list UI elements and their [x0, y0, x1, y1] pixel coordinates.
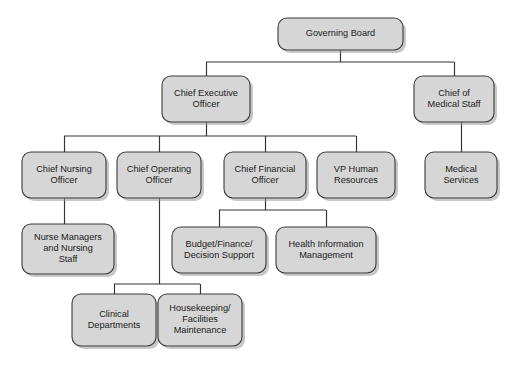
- org-node-clinical-departments[interactable]: ClinicalDepartments: [72, 294, 159, 349]
- node-label-line: Resources: [334, 175, 378, 185]
- node-label-line: VP Human: [334, 164, 378, 174]
- org-node-chief-nursing-officer[interactable]: Chief NursingOfficer: [22, 152, 109, 201]
- node-label-line: Clinical: [99, 309, 129, 319]
- node-label-line: Chief Operating: [127, 164, 191, 174]
- org-node-chief-of-medical-staff[interactable]: Chief ofMedical Staff: [414, 76, 497, 125]
- node-label-line: Officer: [252, 175, 279, 185]
- node-label-line: Chief Nursing: [36, 164, 92, 174]
- node-label-line: Health Information: [288, 239, 363, 249]
- node-label-line: Housekeeping/: [169, 303, 231, 313]
- node-label-line: Chief Executive: [174, 88, 238, 98]
- org-node-health-information-management[interactable]: Health InformationManagement: [276, 227, 379, 276]
- node-label-line: Officer: [146, 175, 173, 185]
- org-node-vp-human-resources[interactable]: VP HumanResources: [317, 152, 398, 201]
- node-label-line: Decision Support: [184, 250, 254, 260]
- node-label-line: Governing Board: [306, 28, 375, 38]
- node-label-line: Budget/Finance/: [186, 239, 253, 249]
- node-label-line: Chief Financial: [235, 164, 296, 174]
- org-chart-container: Governing BoardChief ExecutiveOfficerChi…: [0, 0, 514, 366]
- node-label-line: and Nursing: [43, 243, 93, 253]
- org-node-governing-board[interactable]: Governing Board: [278, 18, 406, 53]
- node-label-line: Medical Staff: [428, 99, 481, 109]
- node-label-line: Management: [299, 250, 353, 260]
- org-chart-svg: Governing BoardChief ExecutiveOfficerChi…: [0, 0, 514, 366]
- org-node-chief-operating-officer[interactable]: Chief OperatingOfficer: [117, 152, 204, 201]
- node-label-line: Departments: [88, 320, 141, 330]
- node-label-line: Services: [443, 175, 479, 185]
- node-label-line: Medical: [445, 164, 477, 174]
- node-label-line: Chief of: [438, 88, 470, 98]
- node-label-line: Nurse Managers: [34, 232, 102, 242]
- org-node-chief-executive-officer[interactable]: Chief ExecutiveOfficer: [162, 76, 253, 125]
- node-label-line: Officer: [51, 175, 78, 185]
- node-layer: Governing BoardChief ExecutiveOfficerChi…: [22, 18, 500, 349]
- node-label-line: Facilities: [182, 314, 218, 324]
- node-label-line: Staff: [59, 254, 78, 264]
- figure-caption: [8, 355, 158, 364]
- node-label-line: Maintenance: [174, 325, 227, 335]
- org-node-nurse-managers-and-nursing-staff[interactable]: Nurse Managersand NursingStaff: [22, 224, 117, 277]
- org-node-housekeeping-facilities-maintenance[interactable]: Housekeeping/FacilitiesMaintenance: [158, 294, 245, 349]
- org-node-chief-financial-officer[interactable]: Chief FinancialOfficer: [224, 152, 309, 201]
- org-node-medical-services[interactable]: MedicalServices: [425, 152, 500, 201]
- node-label-line: Officer: [193, 99, 220, 109]
- org-node-budget-finance-decision-support[interactable]: Budget/Finance/Decision Support: [172, 227, 269, 276]
